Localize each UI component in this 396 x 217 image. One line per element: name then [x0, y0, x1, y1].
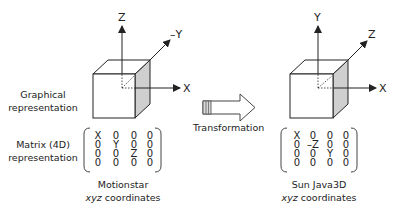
matrix-cell: 0 — [91, 158, 105, 167]
label-line: Graphical — [0, 88, 86, 101]
left-caption: Motionstar xyz coordinates — [78, 178, 168, 204]
right-cube — [290, 60, 348, 118]
left-axis-up-label: Z — [118, 12, 126, 23]
matrix-cell: 0 — [323, 158, 337, 167]
transformation-label: Transformation — [193, 121, 263, 134]
matrix-cell: 0 — [127, 158, 141, 167]
graphical-representation-label: Graphical representation — [0, 88, 86, 114]
matrix-cell: 0 — [109, 158, 123, 167]
matrix-cell: 0 — [290, 158, 304, 167]
right-axis-depth-label: Z — [368, 29, 376, 40]
label-line: Matrix (4D) — [0, 138, 86, 151]
right-caption: Sun Java3D xyz coordinates — [274, 178, 364, 204]
right-axis-up-label: Y — [314, 12, 321, 23]
label-line: representation — [0, 101, 86, 114]
right-axis-right-label: X — [379, 83, 387, 94]
caption-sub: xyz coordinates — [274, 191, 364, 204]
caption-name: Motionstar — [78, 178, 168, 191]
left-axis-depth-label: –Y — [170, 29, 182, 40]
matrix-cell: 0 — [306, 158, 320, 167]
matrix-representation-label: Matrix (4D) representation — [0, 138, 86, 164]
caption-name: Sun Java3D — [274, 178, 364, 191]
matrix-cell: 0 — [143, 158, 157, 167]
matrix-cell: 0 — [339, 158, 353, 167]
left-axis-right-label: X — [183, 83, 191, 94]
caption-sub: xyz coordinates — [78, 191, 168, 204]
label-line: representation — [0, 151, 86, 164]
right-arrow-icon — [203, 94, 255, 121]
